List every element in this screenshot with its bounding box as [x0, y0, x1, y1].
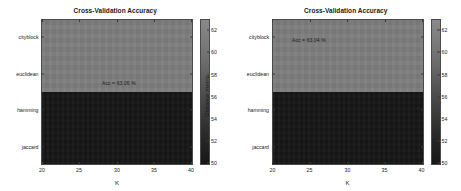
colorbar-tick-label: 62	[442, 27, 448, 33]
chart-panel-left: Cross-Validation Accuracy Acc = 63.06 % …	[0, 0, 231, 191]
colorbar-tick-mark	[207, 52, 210, 53]
x-tick-label: 20	[270, 167, 276, 173]
x-tick-label: 30	[345, 167, 351, 173]
figure-canvas: Cross-Validation Accuracy Acc = 63.06 % …	[0, 0, 461, 191]
colorbar-tick-label: 50	[211, 160, 217, 166]
colorbar-tick-label: 54	[442, 116, 448, 122]
heatmap-texture	[273, 20, 423, 92]
page-title: Cross-Validation Accuracy	[0, 7, 231, 14]
x-axis-label: K	[41, 180, 193, 186]
colorbar-tick-mark	[437, 30, 440, 31]
heatmap-band-high	[273, 20, 423, 92]
colorbar-tick-label: 52	[442, 138, 448, 144]
x-tick-label: 25	[76, 167, 82, 173]
x-tick-label: 35	[382, 167, 388, 173]
colorbar-tick-label: 50	[442, 160, 448, 166]
x-tick-label: 40	[188, 167, 194, 173]
colorbar-tick-mark	[207, 162, 210, 163]
heatmap-axes-right: Acc = 63.04 %	[272, 19, 424, 165]
colorbar-tick-mark	[207, 118, 210, 119]
y-tick-label: cityblock	[19, 34, 39, 40]
colorbar-tick-mark	[437, 141, 440, 142]
colorbar-tick-label: 58	[211, 72, 217, 78]
colorbar-tick-label: 56	[211, 94, 217, 100]
heatmap-axes-left: Acc = 63.06 %	[41, 19, 193, 165]
colorbar-tick-mark	[437, 96, 440, 97]
colorbar-tick-label: 60	[442, 49, 448, 55]
y-tick-label: euclidean	[247, 71, 269, 77]
x-tick-label: 30	[114, 167, 120, 173]
colorbar-tick-label: 62	[211, 27, 217, 33]
chart-panel-right: Cross-Validation Accuracy Acc = 63.04 % …	[231, 0, 461, 191]
colorbar-tick-mark	[207, 141, 210, 142]
y-tick-label: jaccard	[22, 144, 39, 150]
colorbar-tick-mark	[437, 74, 440, 75]
y-tick-label: euclidean	[16, 71, 38, 77]
heatmap-band-low	[273, 92, 423, 164]
colorbar-tick-mark	[437, 162, 440, 163]
heatmap-texture	[273, 92, 423, 164]
colorbar-tick-mark	[437, 118, 440, 119]
y-tick-label: jaccard	[252, 144, 269, 150]
x-tick-label: 25	[307, 167, 313, 173]
y-tick-label: hamming	[17, 107, 38, 113]
x-tick-label: 40	[419, 167, 425, 173]
heatmap-texture	[42, 92, 192, 164]
y-tick-label: hamming	[248, 107, 269, 113]
y-tick-label: cityblock	[249, 34, 269, 40]
colorbar-tick-mark	[437, 52, 440, 53]
x-tick-label: 20	[39, 167, 45, 173]
heatmap-band-low	[42, 92, 192, 164]
colorbar-tick-label: 54	[211, 116, 217, 122]
colorbar-tick-label: 60	[211, 49, 217, 55]
page-title: Cross-Validation Accuracy	[231, 7, 461, 14]
x-tick-label: 35	[151, 167, 157, 173]
colorbar-tick-label: 56	[442, 94, 448, 100]
accuracy-annotation: Acc = 63.06 %	[102, 80, 136, 86]
x-axis-label: K	[272, 180, 424, 186]
accuracy-annotation: Acc = 63.04 %	[292, 37, 326, 43]
y-axis-label: Distance metric	[204, 75, 210, 116]
colorbar-tick-label: 52	[211, 138, 217, 144]
colorbar-tick-mark	[207, 30, 210, 31]
colorbar-tick-label: 58	[442, 72, 448, 78]
colorbar-right: 62 60 58 56 54 52 50	[431, 19, 441, 165]
